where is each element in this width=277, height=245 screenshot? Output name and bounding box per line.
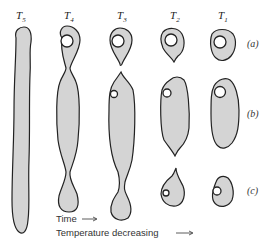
t2-bubble-b (163, 89, 171, 97)
row-label-b: (b) (247, 108, 259, 119)
column-label-t4: T4 (64, 9, 74, 24)
column-label-t2: T2 (170, 9, 180, 24)
t4-column (57, 26, 80, 212)
pinch-off-diagram (0, 0, 277, 245)
col-sub: 4 (70, 16, 74, 24)
row-label-a: (a) (247, 38, 259, 49)
col-sub: 2 (176, 16, 180, 24)
t3-bubble-top (112, 35, 124, 47)
t2-bubble-c (163, 190, 169, 196)
t1-bubble-c (213, 187, 221, 195)
col-sub: 5 (22, 16, 26, 24)
t3-bubble-middle (111, 91, 118, 98)
t2-drop-c (161, 168, 184, 206)
column-label-t3: T3 (117, 9, 127, 24)
column-label-t5: T5 (16, 9, 26, 24)
time-caption: Time (56, 213, 77, 224)
row-label-c: (c) (247, 185, 258, 196)
t5-column (12, 27, 31, 233)
t2-bubble-a (165, 34, 177, 46)
col-sub: 1 (224, 16, 228, 24)
t1-bubble-a (214, 36, 226, 48)
column-label-t1: T1 (218, 9, 228, 24)
temperature-caption: Temperature decreasing (56, 227, 158, 238)
t4-bubble (61, 35, 73, 47)
t1-bubble-b (215, 87, 226, 98)
col-sub: 3 (123, 16, 127, 24)
